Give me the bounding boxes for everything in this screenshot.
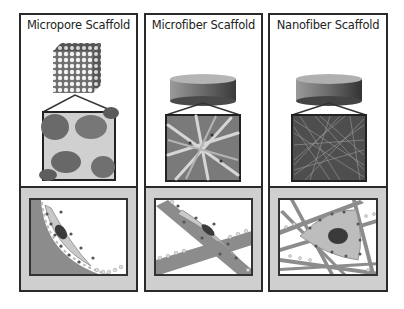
cell-diagram-area bbox=[270, 188, 386, 290]
porous-cube-icon bbox=[53, 43, 101, 93]
panel-microfiber: Microfiber Scaffold bbox=[144, 13, 263, 292]
panel-nanofiber: Nanofiber Scaffold bbox=[268, 13, 388, 292]
microfiber-micrograph bbox=[166, 115, 240, 181]
nanofiber-micrograph bbox=[292, 115, 366, 181]
microfiber-illustration bbox=[146, 15, 261, 186]
cell-on-pore-wall-diagram bbox=[29, 198, 128, 276]
micropore-illustration bbox=[21, 15, 136, 186]
cell-diagram-area bbox=[146, 188, 261, 290]
disc-scaffold-icon bbox=[170, 74, 236, 106]
disc-scaffold-icon bbox=[296, 74, 362, 106]
cell-on-nanofibers-diagram bbox=[278, 198, 378, 276]
cell-diagram-area bbox=[21, 188, 136, 290]
micropore-micrograph bbox=[39, 107, 119, 181]
panel-micropore: Micropore Scaffold bbox=[19, 13, 138, 292]
cell-on-microfiber-diagram bbox=[154, 198, 253, 276]
nanofiber-illustration bbox=[270, 15, 386, 186]
